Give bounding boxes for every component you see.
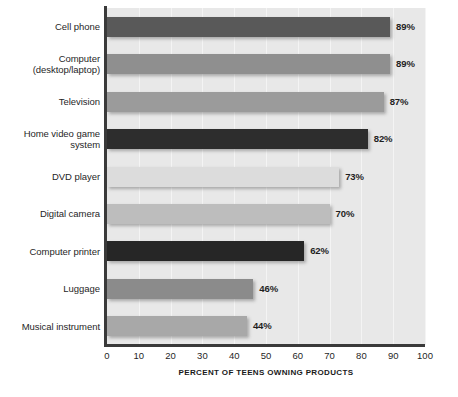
bar-value-label: 82% <box>374 133 393 144</box>
bar[interactable] <box>107 204 330 224</box>
bar-value-label: 44% <box>253 321 272 332</box>
bar-value-label: 87% <box>390 96 409 107</box>
bars-layer: 89%89%87%82%73%70%62%46%44% <box>107 8 425 345</box>
category-label-line: Digital camera <box>40 208 100 219</box>
bar[interactable] <box>107 241 304 261</box>
category-label-line: Computer printer <box>30 246 100 257</box>
bar-row: 62% <box>107 241 425 261</box>
category-label: Television <box>0 83 100 120</box>
category-label: Computer(desktop/laptop) <box>0 45 100 82</box>
category-label: Home video gamesystem <box>0 120 100 157</box>
bar[interactable] <box>107 92 384 112</box>
bar[interactable] <box>107 279 253 299</box>
category-label: Luggage <box>0 270 100 307</box>
bar[interactable] <box>107 54 390 74</box>
category-label-line: DVD player <box>52 171 100 182</box>
bar-row: 46% <box>107 279 425 299</box>
bar-chart-figure: Cell phoneComputer(desktop/laptop)Televi… <box>0 0 458 397</box>
bar-row: 89% <box>107 54 425 74</box>
bar-row: 87% <box>107 92 425 112</box>
bar-value-label: 89% <box>396 21 415 32</box>
category-label-line: Musical instrument <box>22 321 100 332</box>
x-axis-tick-label: 50 <box>261 350 272 361</box>
bar[interactable] <box>107 316 247 336</box>
bar-value-label: 70% <box>336 208 355 219</box>
category-label-line: Television <box>59 96 100 107</box>
x-axis-tick-label: 80 <box>356 350 367 361</box>
x-axis-tick-label: 100 <box>417 350 433 361</box>
bar[interactable] <box>107 167 339 187</box>
x-axis-tick-label: 0 <box>104 350 109 361</box>
x-axis-tick-label: 20 <box>165 350 176 361</box>
category-axis-labels: Cell phoneComputer(desktop/laptop)Televi… <box>0 8 100 345</box>
x-axis-tick-label: 30 <box>197 350 208 361</box>
bar-row: 73% <box>107 167 425 187</box>
bar[interactable] <box>107 17 390 37</box>
x-axis-tick-label: 10 <box>134 350 145 361</box>
category-label-line: Home video game <box>24 128 100 139</box>
bar-row: 70% <box>107 204 425 224</box>
category-label: DVD player <box>0 158 100 195</box>
bar-row: 82% <box>107 129 425 149</box>
bar-row: 44% <box>107 316 425 336</box>
x-axis-tick-label: 60 <box>293 350 304 361</box>
category-label: Cell phone <box>0 8 100 45</box>
category-label-line: Cell phone <box>55 21 100 32</box>
category-label-line: (desktop/laptop) <box>33 64 100 75</box>
category-label-line: Computer <box>59 53 100 64</box>
bar-row: 89% <box>107 17 425 37</box>
category-label: Digital camera <box>0 195 100 232</box>
x-axis-tick-label: 40 <box>229 350 240 361</box>
gridline <box>425 8 426 345</box>
category-label-line: Luggage <box>63 283 100 294</box>
x-axis-title: PERCENT OF TEENS OWNING PRODUCTS <box>107 368 425 377</box>
x-axis-tick-labels: 0102030405060708090100 <box>107 350 425 364</box>
bar[interactable] <box>107 129 368 149</box>
x-axis-tick-label: 90 <box>388 350 399 361</box>
category-label: Computer printer <box>0 233 100 270</box>
bar-value-label: 89% <box>396 58 415 69</box>
bar-value-label: 46% <box>259 283 278 294</box>
bar-value-label: 62% <box>310 246 329 257</box>
category-label-line: system <box>70 139 100 150</box>
category-label: Musical instrument <box>0 308 100 345</box>
x-axis-tick-label: 70 <box>324 350 335 361</box>
bar-value-label: 73% <box>345 171 364 182</box>
